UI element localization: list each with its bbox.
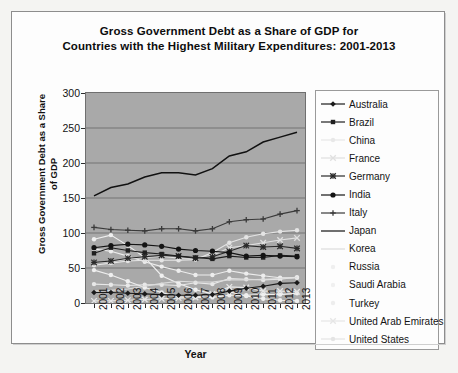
legend-item-label: Germany (346, 171, 390, 182)
chart-legend: AustraliaBrazilChinaFranceGermanyIndiaIt… (315, 90, 439, 350)
legend-item-australia[interactable]: Australia (320, 95, 435, 113)
legend-item-label: Brazil (346, 117, 374, 128)
legend-item-label: Italy (346, 207, 367, 218)
legend-item-label: France (346, 153, 380, 164)
legend-item-italy[interactable]: Italy (320, 204, 435, 222)
legend-item-label: Russia (346, 261, 380, 272)
x-tick-mark (128, 304, 129, 308)
x-tick-label: 2007 (200, 288, 211, 310)
y-tick-label: 250 (62, 122, 80, 134)
y-tick-label: 300 (62, 87, 80, 99)
x-tick-label: 2011 (267, 288, 278, 310)
x-tick-label: 2012 (284, 288, 295, 310)
legend-item-france[interactable]: France (320, 149, 435, 167)
legend-item-japan[interactable]: Japan (320, 222, 435, 240)
legend-marker-icon (320, 116, 346, 128)
legend-item-india[interactable]: India (320, 185, 435, 203)
x-tick-label: 2010 (250, 288, 261, 310)
x-tick-mark (280, 304, 281, 308)
legend-marker-icon (320, 170, 346, 182)
legend-item-label: China (346, 135, 375, 146)
x-tick-label: 2009 (233, 288, 244, 310)
y-axis-title-line-1: Gross Government Debt as a Share (36, 94, 48, 254)
plot-area (85, 92, 306, 304)
x-tick-label: 2008 (216, 288, 227, 310)
legend-item-turkey[interactable]: Turkey (320, 294, 435, 312)
y-tick-mark (81, 93, 85, 94)
y-axis-title: Gross Government Debt as a Share of GDP (36, 94, 60, 254)
y-tick-mark (81, 268, 85, 269)
series-italy (91, 208, 300, 234)
legend-item-united-states[interactable]: United States (320, 330, 435, 348)
legend-item-brazil[interactable]: Brazil (320, 113, 435, 131)
y-tick-label: 150 (62, 192, 80, 204)
x-tick-label: 2003 (132, 288, 143, 310)
legend-marker-icon (320, 207, 346, 219)
legend-marker-icon (320, 333, 346, 345)
x-tick-mark (196, 304, 197, 308)
x-tick-mark (145, 304, 146, 308)
y-tick-label: 0 (74, 297, 80, 309)
legend-marker-icon (320, 243, 346, 255)
y-axis-title-line-2: of GDP (48, 94, 60, 254)
legend-item-united-arab-emirates[interactable]: United Arab Emirates (320, 312, 435, 330)
legend-item-label: Saudi Arabia (346, 279, 406, 290)
legend-marker-icon (320, 189, 346, 201)
x-tick-mark (246, 304, 247, 308)
series-united-states (92, 228, 299, 267)
x-tick-mark (212, 304, 213, 308)
legend-item-russia[interactable]: Russia (320, 258, 435, 276)
chart-title: Gross Government Debt as a Share of GDP … (12, 24, 446, 54)
legend-item-china[interactable]: China (320, 131, 435, 149)
plot-area-wrapper: 050100150200250300 200120022003200420052… (85, 92, 306, 304)
x-tick-label: 2001 (98, 288, 109, 310)
x-tick-mark (179, 304, 180, 308)
y-tick-mark (81, 163, 85, 164)
x-tick-mark (229, 304, 230, 308)
chart-card: Gross Government Debt as a Share of GDP … (11, 11, 445, 344)
y-tick-mark (81, 303, 85, 304)
legend-marker-icon (320, 152, 346, 164)
legend-item-label: United States (346, 334, 409, 345)
x-tick-label: 2004 (149, 288, 160, 310)
series-japan (94, 132, 297, 196)
legend-marker-icon (320, 134, 346, 146)
x-tick-mark (263, 304, 264, 308)
x-axis-title: Year (85, 348, 306, 360)
chart-title-line-2: Countries with the Highest Military Expe… (12, 39, 446, 54)
series-layer (86, 93, 305, 303)
x-tick-mark (94, 304, 95, 308)
legend-item-label: United Arab Emirates (346, 316, 444, 327)
y-tick-mark (81, 233, 85, 234)
y-tick-label: 50 (68, 262, 80, 274)
legend-marker-icon (320, 315, 346, 327)
x-tick-label: 2005 (166, 288, 177, 310)
legend-marker-icon (320, 98, 346, 110)
y-tick-label: 200 (62, 157, 80, 169)
legend-item-label: Australia (346, 99, 388, 110)
legend-marker-icon (320, 279, 346, 291)
legend-item-label: Turkey (346, 298, 379, 309)
legend-item-label: Japan (346, 225, 376, 236)
legend-item-label: Korea (346, 243, 376, 254)
x-tick-mark (111, 304, 112, 308)
x-tick-mark (297, 304, 298, 308)
legend-item-label: India (346, 189, 371, 200)
x-tick-label: 2002 (115, 288, 126, 310)
x-tick-label: 2006 (183, 288, 194, 310)
y-tick-label: 100 (62, 227, 80, 239)
y-tick-mark (81, 198, 85, 199)
legend-item-saudi-arabia[interactable]: Saudi Arabia (320, 276, 435, 294)
x-tick-label: 2013 (301, 288, 312, 310)
chart-title-line-1: Gross Government Debt as a Share of GDP … (12, 24, 446, 39)
y-tick-mark (81, 128, 85, 129)
legend-marker-icon (320, 297, 346, 309)
legend-item-korea[interactable]: Korea (320, 240, 435, 258)
x-tick-mark (162, 304, 163, 308)
chart-page: Gross Government Debt as a Share of GDP … (0, 0, 458, 373)
legend-marker-icon (320, 261, 346, 273)
legend-item-germany[interactable]: Germany (320, 167, 435, 185)
legend-marker-icon (320, 225, 346, 237)
